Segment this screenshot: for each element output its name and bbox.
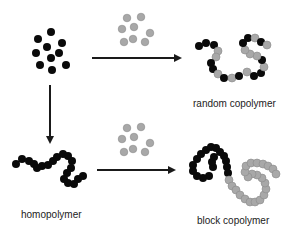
bead-a (235, 72, 243, 80)
monomer-b (130, 133, 138, 141)
homopolymer-chain (12, 150, 87, 188)
monomer-b (141, 148, 149, 156)
monomer-b (120, 148, 128, 156)
monomer-b-cluster-top (118, 13, 154, 46)
monomer-a (36, 61, 44, 69)
bead-a (220, 74, 228, 82)
monomer-a (43, 43, 51, 51)
monomer-b (129, 35, 137, 43)
monomer-b (137, 123, 145, 131)
monomer-a (55, 49, 63, 57)
monomer-b-cluster-bottom (118, 123, 154, 156)
bead-b (263, 41, 271, 49)
monomer-b (129, 145, 137, 153)
bead-a (18, 155, 26, 163)
bead-a (250, 72, 258, 80)
monomer-b (137, 13, 145, 21)
bead-a (195, 42, 203, 50)
random-copolymer-chain (195, 34, 271, 82)
monomer-a (58, 39, 66, 47)
monomer-a-cluster (32, 28, 70, 74)
block-copolymer-chain (189, 143, 280, 206)
monomer-b (123, 14, 131, 22)
bead-b (272, 170, 280, 178)
bead-a (68, 157, 76, 165)
bead-b (241, 46, 249, 54)
monomer-a (62, 61, 70, 69)
monomer-b (118, 25, 126, 33)
monomer-a (32, 49, 40, 57)
polymer-diagram (0, 0, 289, 235)
bead-a (224, 169, 232, 177)
bead-b (228, 74, 236, 82)
monomer-b (146, 29, 154, 37)
bead-a (202, 39, 210, 47)
label-random-copolymer: random copolymer (193, 99, 276, 109)
monomer-b (118, 135, 126, 143)
bead-b (243, 68, 251, 76)
monomer-b (141, 38, 149, 46)
monomer-a (47, 54, 55, 62)
bead-b (260, 63, 268, 71)
label-block-copolymer: block copolymer (197, 216, 269, 226)
monomer-a (34, 35, 42, 43)
monomer-a (48, 66, 56, 74)
monomer-b (120, 38, 128, 46)
monomer-b (130, 23, 138, 31)
label-homopolymer: homopolymer (21, 210, 82, 220)
bead-a (79, 172, 87, 180)
monomer-b (123, 124, 131, 132)
monomer-b (146, 139, 154, 147)
monomer-a (47, 28, 55, 36)
